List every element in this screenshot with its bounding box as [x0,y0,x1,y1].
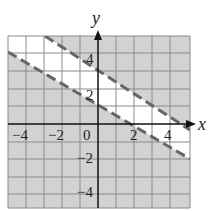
inequality-graph: x y −4 −2 0 2 4 4 2 −2 −4 [0,0,220,211]
svg-text:2: 2 [86,87,94,103]
svg-text:0: 0 [83,127,91,143]
svg-text:−4: −4 [77,184,93,200]
svg-text:−2: −2 [77,150,93,166]
y-axis-arrow-icon [94,30,102,40]
y-axis-label: y [90,8,100,28]
svg-text:4: 4 [86,51,94,67]
svg-text:2: 2 [130,127,138,143]
svg-text:4: 4 [164,127,172,143]
svg-text:−2: −2 [48,127,64,143]
svg-text:−4: −4 [12,127,28,143]
x-axis-label: x [197,114,206,134]
x-axis-arrow-icon [186,120,196,128]
